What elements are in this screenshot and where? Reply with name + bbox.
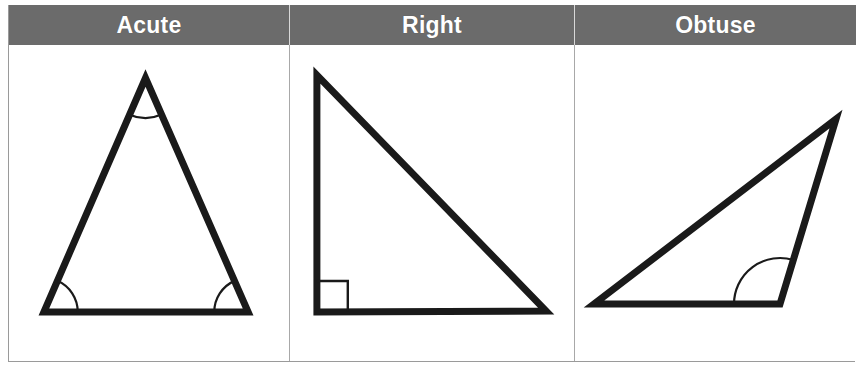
acute-triangle-figure [9, 45, 289, 361]
acute-angle-arc-left [57, 281, 77, 312]
right-triangle-outline [317, 75, 546, 312]
acute-angle-arc-apex [130, 115, 162, 118]
triangle-classification-table-page: Acute Right Obtuse [0, 0, 862, 377]
triangle-types-table: Acute Right Obtuse [8, 5, 855, 362]
cell-acute-triangle [9, 45, 290, 361]
cell-right-triangle [290, 45, 575, 361]
acute-triangle-outline [44, 78, 248, 312]
acute-angle-arc-right [214, 281, 234, 312]
table-header-row: Acute Right Obtuse [9, 5, 856, 45]
column-header-obtuse: Obtuse [575, 5, 856, 45]
column-header-acute: Acute [9, 5, 290, 45]
obtuse-triangle-figure [575, 45, 856, 361]
right-triangle-figure [290, 45, 574, 361]
right-angle-square [317, 281, 348, 312]
table-body-row [9, 45, 856, 361]
cell-obtuse-triangle [575, 45, 856, 361]
obtuse-triangle-outline [594, 119, 836, 304]
column-header-right: Right [290, 5, 575, 45]
